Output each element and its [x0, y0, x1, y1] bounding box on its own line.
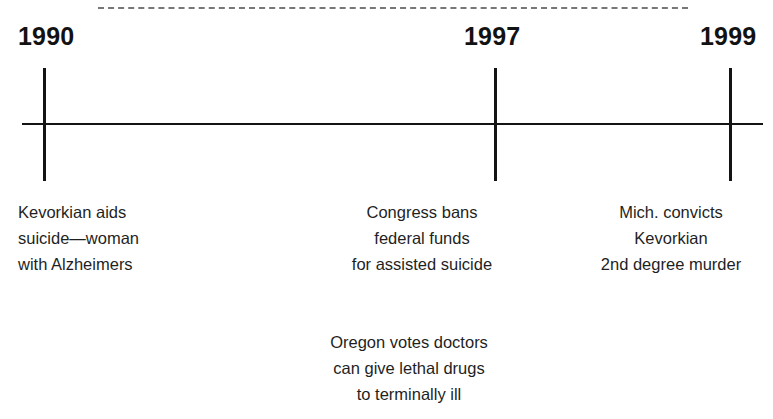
event-caption-1997-oregon: Oregon votes doctors can give lethal dru…	[274, 329, 544, 407]
event-caption-1997-congress: Congress bans federal funds for assisted…	[300, 199, 544, 277]
caption-line: Mich. convicts	[575, 199, 767, 225]
caption-line: can give lethal drugs	[274, 355, 544, 381]
tick-mark-1999	[729, 68, 732, 181]
event-caption-1999: Mich. convicts Kevorkian 2nd degree murd…	[575, 199, 767, 277]
caption-line: with Alzheimers	[18, 251, 248, 277]
year-label-1999: 1999	[700, 24, 756, 49]
caption-line: Congress bans	[300, 199, 544, 225]
timeline-figure: 1990 1997 1999 Kevorkian aids suicide—wo…	[0, 0, 773, 419]
caption-line: Kevorkian aids	[18, 199, 248, 225]
tick-mark-1997	[494, 68, 497, 181]
caption-line: Oregon votes doctors	[274, 329, 544, 355]
caption-line: federal funds	[300, 225, 544, 251]
caption-line: for assisted suicide	[300, 251, 544, 277]
tick-mark-1990	[43, 68, 46, 181]
year-label-1990: 1990	[18, 24, 74, 49]
event-caption-1990: Kevorkian aids suicide—woman with Alzhei…	[18, 199, 248, 277]
caption-line: Kevorkian	[575, 225, 767, 251]
timeline-axis-line	[22, 123, 763, 125]
caption-line: 2nd degree murder	[575, 251, 767, 277]
caption-line: suicide—woman	[18, 225, 248, 251]
caption-line: to terminally ill	[274, 381, 544, 407]
dashed-separator-rule	[98, 7, 688, 9]
year-label-1997: 1997	[464, 24, 520, 49]
